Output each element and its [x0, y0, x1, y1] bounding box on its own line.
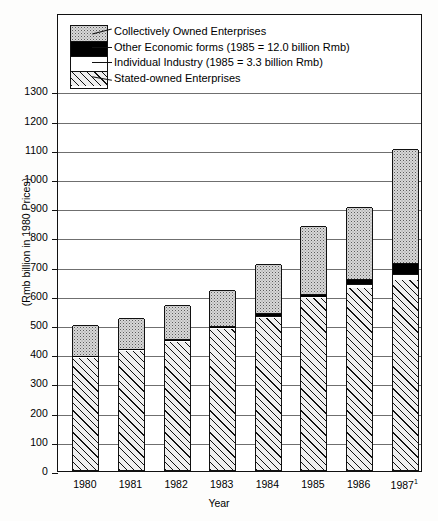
legend-label: Stated-owned Enterprises [114, 72, 241, 84]
legend-label: Other Economic forms (1985 = 12.0 billio… [114, 41, 350, 53]
legend-label: Individual Industry (1985 = 3.3 billion … [114, 56, 323, 68]
chart-legend: Collectively Owned EnterprisesOther Econ… [70, 24, 400, 92]
x-tick-label-1987: 19871 [374, 478, 434, 491]
legend-leader-line [92, 47, 112, 48]
legend-swatch-white-dotted [71, 56, 107, 71]
x-label-footnote-marker: 1 [414, 478, 418, 485]
legend-label: Collectively Owned Enterprises [114, 25, 266, 37]
chart-figure: 0100200300400500600700800900100011001200… [0, 0, 438, 521]
legend-leader-line [92, 62, 112, 63]
legend-swatch-grey-stipple [71, 26, 107, 41]
legend-swatch-solid-black [71, 41, 107, 56]
x-axis-title: Year [0, 497, 438, 509]
legend-swatch-stack [70, 25, 108, 89]
